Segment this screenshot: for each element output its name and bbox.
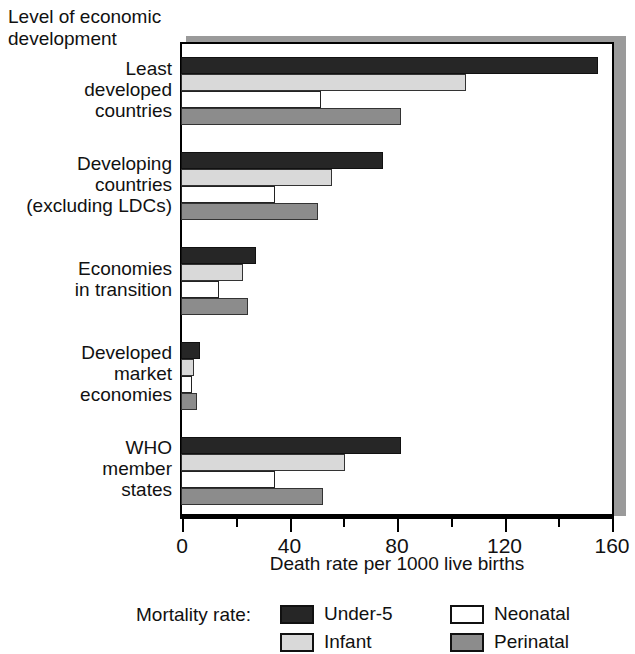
- category-label-line: member: [0, 458, 172, 479]
- legend-label: Perinatal: [494, 630, 569, 654]
- bar-group: [182, 328, 612, 423]
- chart-axis-title-line1: Level of economic: [8, 6, 178, 28]
- bar-under5-2: [181, 247, 256, 264]
- x-tick-major: [182, 519, 184, 532]
- legend-label: Under-5: [324, 602, 393, 626]
- category-label: WHOmemberstates: [0, 437, 172, 500]
- category-label: Economiesin transition: [0, 258, 172, 300]
- bar-row: [182, 57, 612, 74]
- bar-perinatal-4: [181, 488, 323, 505]
- plot-area: [182, 44, 612, 514]
- category-label-line: countries: [0, 100, 172, 121]
- legend-swatch-under5: [280, 605, 314, 624]
- category-label: Developedmarketeconomies: [0, 342, 172, 405]
- bar-row: [182, 281, 612, 298]
- bar-group: [182, 44, 612, 139]
- category-label-line: economies: [0, 384, 172, 405]
- chart-axis-title-line2: development: [8, 28, 178, 50]
- bar-infant-2: [181, 264, 243, 281]
- bar-neonatal-0: [181, 91, 321, 108]
- bar-row: [182, 186, 612, 203]
- bar-row: [182, 359, 612, 376]
- category-label-line: in transition: [0, 279, 172, 300]
- legend-label: Infant: [324, 630, 372, 654]
- legend-swatch-perinatal: [450, 633, 484, 652]
- bar-group: [182, 234, 612, 329]
- bar-row: [182, 247, 612, 264]
- x-tick-major: [290, 519, 292, 532]
- bar-neonatal-1: [181, 186, 275, 203]
- x-axis-label: Death rate per 1000 live births: [180, 553, 614, 575]
- x-tick-major: [505, 519, 507, 532]
- bar-row: [182, 203, 612, 220]
- category-label: Developingcountries(excluding LDCs): [0, 153, 172, 216]
- plot-frame: [180, 42, 614, 516]
- bar-perinatal-3: [181, 393, 197, 410]
- category-label-line: (excluding LDCs): [0, 195, 172, 216]
- bar-perinatal-2: [181, 298, 248, 315]
- category-label-line: developed: [0, 79, 172, 100]
- category-label-line: states: [0, 479, 172, 500]
- category-label-line: countries: [0, 174, 172, 195]
- bar-row: [182, 454, 612, 471]
- chart-axis-title: Level of economic development: [8, 6, 178, 50]
- bar-under5-0: [181, 57, 598, 74]
- bar-row: [182, 74, 612, 91]
- bar-row: [182, 342, 612, 359]
- legend-label: Neonatal: [494, 602, 570, 626]
- category-label: Leastdevelopedcountries: [0, 58, 172, 121]
- bar-infant-0: [181, 74, 466, 91]
- bar-perinatal-0: [181, 108, 401, 125]
- bar-row: [182, 488, 612, 505]
- x-tick-major: [397, 519, 399, 532]
- bar-group: [182, 139, 612, 234]
- bar-under5-3: [181, 342, 200, 359]
- bar-perinatal-1: [181, 203, 318, 220]
- chart-legend: Mortality rate: Under-5NeonatalInfantPer…: [0, 600, 635, 654]
- bar-row: [182, 91, 612, 108]
- category-label-line: market: [0, 363, 172, 384]
- x-tick-minor: [451, 519, 453, 527]
- legend-swatch-infant: [280, 633, 314, 652]
- x-tick-minor: [343, 519, 345, 527]
- bar-neonatal-2: [181, 281, 219, 298]
- legend-title: Mortality rate:: [136, 604, 251, 626]
- bar-row: [182, 393, 612, 410]
- bar-neonatal-3: [181, 376, 192, 393]
- category-label-line: Developing: [0, 153, 172, 174]
- bar-row: [182, 108, 612, 125]
- bar-row: [182, 152, 612, 169]
- bar-under5-1: [181, 152, 383, 169]
- category-label-line: Economies: [0, 258, 172, 279]
- x-tick-major: [612, 519, 614, 532]
- bar-row: [182, 264, 612, 281]
- bar-row: [182, 471, 612, 488]
- bar-group: [182, 423, 612, 518]
- x-tick-minor: [236, 519, 238, 527]
- bar-infant-3: [181, 359, 194, 376]
- bar-neonatal-4: [181, 471, 275, 488]
- x-tick-minor: [558, 519, 560, 527]
- category-label-line: Developed: [0, 342, 172, 363]
- x-axis: 04080120160: [180, 516, 614, 517]
- bar-row: [182, 169, 612, 186]
- legend-swatch-neonatal: [450, 605, 484, 624]
- category-label-line: WHO: [0, 437, 172, 458]
- bar-infant-1: [181, 169, 332, 186]
- bar-row: [182, 376, 612, 393]
- bar-row: [182, 298, 612, 315]
- category-label-line: Least: [0, 58, 172, 79]
- bar-row: [182, 437, 612, 454]
- bar-under5-4: [181, 437, 401, 454]
- bar-infant-4: [181, 454, 345, 471]
